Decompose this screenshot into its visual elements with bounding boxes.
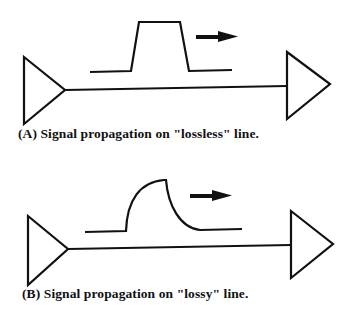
caption-b: (B) Signal propagation on "lossy" line. [22,286,248,302]
propagation-arrow-icon [196,31,238,42]
lossy-pulse [85,180,242,232]
caption-a: (A) Signal propagation on "lossless" lin… [18,126,259,142]
propagation-arrow-icon [190,190,232,201]
receiver-buffer-icon [291,211,333,278]
receiver-buffer-icon [287,52,330,119]
panel-a [24,22,330,124]
transmission-line [65,86,287,90]
lossless-pulse [90,22,232,72]
transmission-line-diagram [0,0,351,322]
driver-buffer-icon [24,57,65,124]
driver-buffer-icon [28,216,68,285]
transmission-line [68,245,291,249]
panel-b [28,180,333,285]
